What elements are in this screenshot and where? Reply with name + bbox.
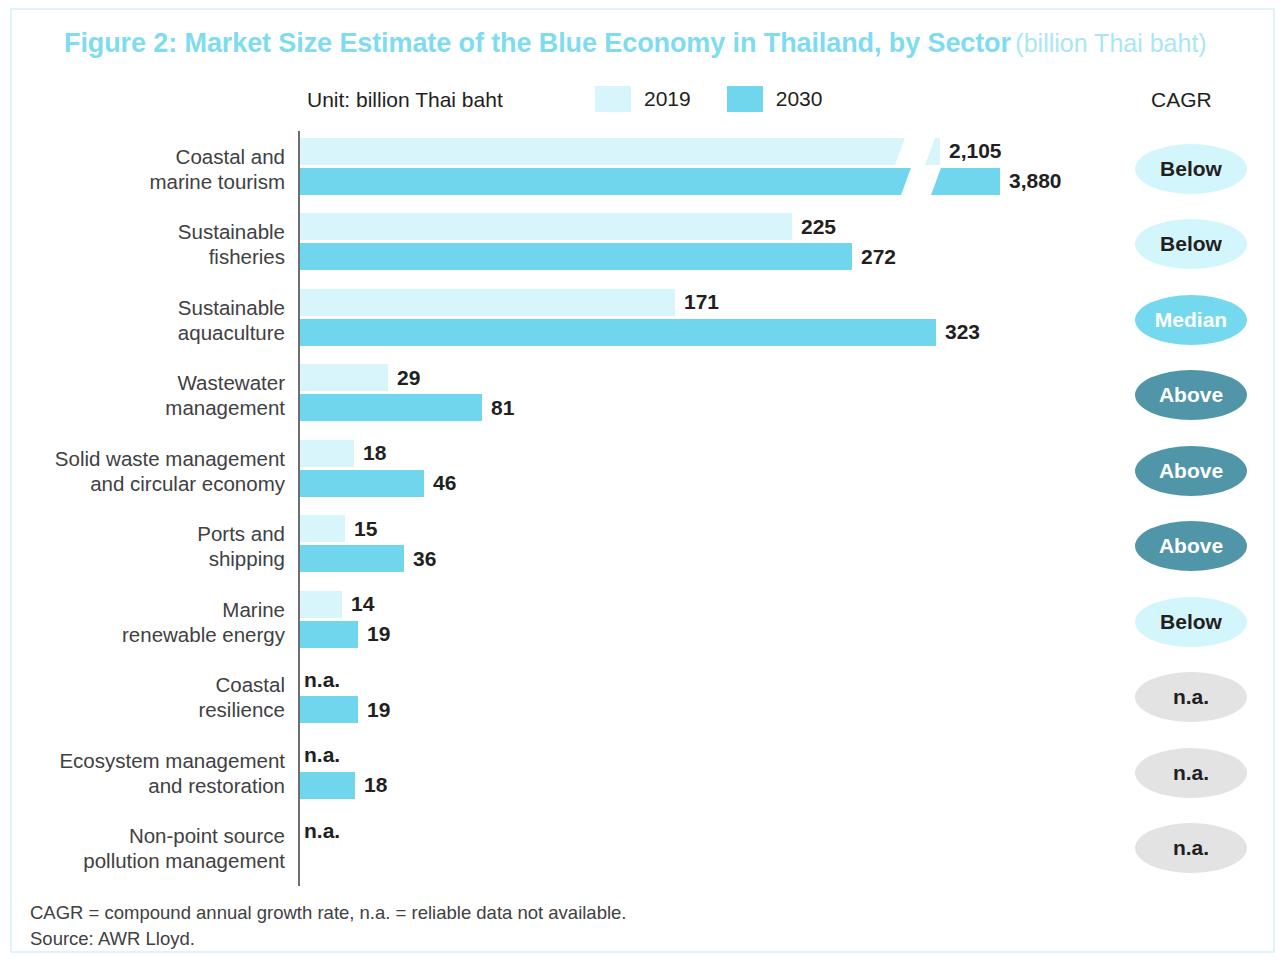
bar-line-2019: n.a. bbox=[300, 742, 1280, 769]
chart-row: Wastewater management 29 81 Above bbox=[0, 358, 1287, 434]
cagr-badge: Above bbox=[1135, 446, 1247, 496]
category-label: Ports and shipping bbox=[0, 521, 285, 571]
bar-value-2030: 323 bbox=[945, 320, 980, 344]
bar-line-2019: 2,105 bbox=[300, 138, 1280, 165]
bar-group: 2,105 3,880 bbox=[300, 138, 1280, 200]
chart-row: Sustainable fisheries 225 272 Below bbox=[0, 207, 1287, 283]
bar-2019 bbox=[300, 591, 342, 618]
chart-row: Solid waste management and circular econ… bbox=[0, 433, 1287, 509]
bar-value-2030: 272 bbox=[861, 245, 896, 269]
bar-line-2030: 272 bbox=[300, 243, 1280, 270]
cagr-badge: Below bbox=[1135, 219, 1247, 269]
legend-label-2019: 2019 bbox=[644, 87, 691, 111]
bar-2019 bbox=[300, 364, 388, 391]
figure-title-unit: (billion Thai baht) bbox=[1015, 29, 1206, 57]
bar-value-2019: n.a. bbox=[304, 819, 340, 843]
bar-line-2019: n.a. bbox=[300, 666, 1280, 693]
bar-line-2030: 81 bbox=[300, 394, 1280, 421]
bar-2030 bbox=[300, 168, 1000, 195]
bar-2019 bbox=[300, 213, 792, 240]
footnote-source: Source: AWR Lloyd. bbox=[30, 926, 626, 952]
bar-group: 14 19 bbox=[300, 591, 1280, 653]
chart-row: Marine renewable energy 14 19 Below bbox=[0, 584, 1287, 660]
cagr-column-header: CAGR bbox=[1151, 88, 1212, 112]
legend-item-2030: 2030 bbox=[727, 86, 823, 112]
bar-group: 171 323 bbox=[300, 289, 1280, 351]
bar-line-2030: 46 bbox=[300, 470, 1280, 497]
figure-container: Figure 2: Market Size Estimate of the Bl… bbox=[0, 0, 1287, 980]
bar-group: n.a. 18 bbox=[300, 742, 1280, 804]
bar-line-2030: 18 bbox=[300, 772, 1280, 799]
bar-group: n.a. 19 bbox=[300, 666, 1280, 728]
chart-row: Coastal and marine tourism 2,105 3,880 B… bbox=[0, 131, 1287, 207]
bar-value-2019: 171 bbox=[684, 290, 719, 314]
bar-line-2019: 14 bbox=[300, 591, 1280, 618]
cagr-badge: Above bbox=[1135, 370, 1247, 420]
bar-2030 bbox=[300, 470, 424, 497]
bar-2019 bbox=[300, 289, 675, 316]
category-label: Solid waste management and circular econ… bbox=[0, 446, 285, 496]
bar-2019 bbox=[300, 138, 940, 165]
bar-value-2030: 19 bbox=[367, 698, 390, 722]
bar-group: 225 272 bbox=[300, 213, 1280, 275]
bar-line-2019: 225 bbox=[300, 213, 1280, 240]
bar-2030 bbox=[300, 243, 852, 270]
bar-group: 18 46 bbox=[300, 440, 1280, 502]
bar-line-2019: 15 bbox=[300, 515, 1280, 542]
bar-2019 bbox=[300, 440, 354, 467]
bar-group: n.a. bbox=[300, 817, 1280, 879]
cagr-badge: n.a. bbox=[1135, 672, 1247, 722]
unit-label: Unit: billion Thai baht bbox=[307, 88, 503, 112]
bar-value-2030: 18 bbox=[364, 773, 387, 797]
bar-2030 bbox=[300, 319, 936, 346]
bar-line-2019: n.a. bbox=[300, 817, 1280, 844]
bar-value-2019: 14 bbox=[351, 592, 374, 616]
bar-2030 bbox=[300, 696, 358, 723]
bar-value-2030: 19 bbox=[367, 622, 390, 646]
bar-value-2019: 18 bbox=[363, 441, 386, 465]
category-label: Coastal and marine tourism bbox=[0, 144, 285, 194]
chart-row: Ports and shipping 15 36 Above bbox=[0, 509, 1287, 585]
category-label: Coastal resilience bbox=[0, 672, 285, 722]
bar-line-2030: 19 bbox=[300, 696, 1280, 723]
bar-value-2030: 36 bbox=[413, 547, 436, 571]
chart-row: Ecosystem management and restoration n.a… bbox=[0, 735, 1287, 811]
bar-2030 bbox=[300, 621, 358, 648]
category-label: Sustainable aquaculture bbox=[0, 295, 285, 345]
category-label: Non-point source pollution management bbox=[0, 823, 285, 873]
legend-swatch-2030-icon bbox=[727, 86, 763, 112]
bar-value-2019: n.a. bbox=[304, 668, 340, 692]
cagr-badge: n.a. bbox=[1135, 748, 1247, 798]
chart-row: Coastal resilience n.a. 19 n.a. bbox=[0, 660, 1287, 736]
legend-item-2019: 2019 bbox=[595, 86, 691, 112]
bar-value-2019: n.a. bbox=[304, 743, 340, 767]
bar-value-2019: 15 bbox=[354, 517, 377, 541]
category-label: Wastewater management bbox=[0, 370, 285, 420]
footnote-abbreviations: CAGR = compound annual growth rate, n.a.… bbox=[30, 900, 626, 926]
bar-value-2019: 29 bbox=[397, 366, 420, 390]
cagr-badge: Below bbox=[1135, 144, 1247, 194]
chart-row: Sustainable aquaculture 171 323 Median bbox=[0, 282, 1287, 358]
axis-break-icon bbox=[894, 136, 935, 167]
bar-line-2030: 19 bbox=[300, 621, 1280, 648]
bar-line-2030: 36 bbox=[300, 545, 1280, 572]
bar-value-2019: 225 bbox=[801, 215, 836, 239]
cagr-badge: Median bbox=[1135, 295, 1247, 345]
bar-line-2030: 323 bbox=[300, 319, 1280, 346]
bar-value-2019: 2,105 bbox=[949, 139, 1002, 163]
category-label: Ecosystem management and restoration bbox=[0, 748, 285, 798]
category-label: Marine renewable energy bbox=[0, 597, 285, 647]
bar-line-2030 bbox=[300, 847, 1280, 874]
chart-legend: 2019 2030 bbox=[595, 86, 858, 112]
cagr-badge: Above bbox=[1135, 521, 1247, 571]
chart-rows: Coastal and marine tourism 2,105 3,880 B… bbox=[0, 131, 1287, 886]
bar-value-2030: 46 bbox=[433, 471, 456, 495]
bar-group: 15 36 bbox=[300, 515, 1280, 577]
bar-2030 bbox=[300, 545, 404, 572]
bar-value-2030: 81 bbox=[491, 396, 514, 420]
bar-line-2030: 3,880 bbox=[300, 168, 1280, 195]
bar-2019 bbox=[300, 515, 345, 542]
figure-footnotes: CAGR = compound annual growth rate, n.a.… bbox=[30, 900, 626, 952]
axis-break-icon bbox=[900, 166, 941, 197]
chart-row: Non-point source pollution management n.… bbox=[0, 811, 1287, 887]
